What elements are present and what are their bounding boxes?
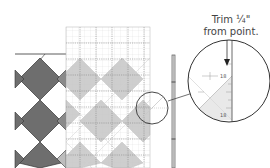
dark-diamond-quilt-row (15, 54, 66, 168)
ruler-mark-lower: 18 (220, 112, 226, 118)
trim-label: Trim ¼" from point. (196, 14, 266, 38)
trim-label-line1: Trim ¼" (196, 14, 266, 26)
quilt-trim-diagram: 18 18 Trim ¼" from point. (0, 0, 270, 168)
small-detail-circle (136, 92, 168, 124)
ruler-grid (66, 27, 150, 168)
ruler-mark-upper: 18 (220, 73, 226, 79)
vertical-ruler-strip (172, 55, 176, 168)
magnified-detail-circle (188, 40, 270, 122)
trim-label-line2: from point. (196, 26, 266, 38)
